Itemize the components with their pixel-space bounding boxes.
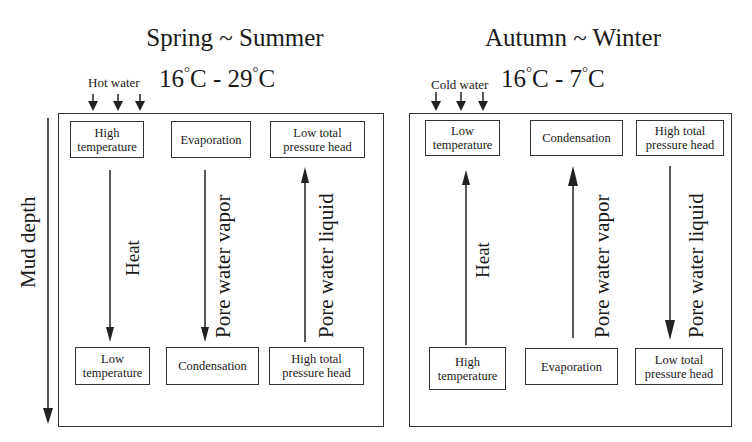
box-low-pressure-head-top: Low totalpressure head	[270, 121, 365, 158]
hot-water-label: Hot water	[88, 76, 140, 90]
box-evaporation-bottom: Evaporation	[525, 348, 618, 385]
temp-range-autumn-winter: 16°C - 7°C	[501, 58, 605, 93]
flow-label-heat: Heat	[472, 242, 494, 278]
box-line: temperature	[433, 138, 493, 152]
box-line: High total	[646, 124, 714, 138]
box-line: High	[438, 355, 498, 369]
cold-water-arrows-icon	[431, 92, 488, 111]
temp-to: 29	[228, 65, 253, 92]
box-line: temperature	[83, 366, 143, 380]
temp-unit: C	[259, 65, 276, 92]
box-low-pressure-head-bottom: Low totalpressure head	[635, 348, 723, 385]
box-low-temperature-top: Lowtemperature	[425, 120, 500, 156]
box-line: Condensation	[542, 131, 611, 145]
box-line: Evaporation	[541, 360, 602, 374]
mud-depth-arrow-icon	[43, 118, 53, 424]
box-line: Evaporation	[180, 133, 241, 147]
temp-from: 16	[159, 65, 184, 92]
box-line: Low total	[645, 353, 713, 367]
box-line: Low total	[283, 126, 351, 140]
temp-separator: -	[549, 65, 570, 92]
panel-title-spring-summer: Spring ~ Summer	[120, 24, 350, 52]
temp-unit: C	[532, 65, 549, 92]
box-condensation-top: Condensation	[530, 120, 623, 156]
mud-depth-label: Mud depth	[16, 196, 41, 288]
flow-label-heat: Heat	[122, 240, 144, 276]
box-high-temperature-bottom: Hightemperature	[429, 347, 506, 390]
panel-title-autumn-winter: Autumn ~ Winter	[458, 24, 688, 52]
box-line: Low	[83, 352, 143, 366]
box-line: High total	[282, 352, 350, 366]
flow-label-pore-water-vapor: Pore water vapor	[590, 195, 615, 338]
box-condensation-bottom: Condensation	[166, 347, 259, 385]
temp-range-spring-summer: 16°C - 29°C	[159, 58, 275, 93]
hot-water-arrows-icon	[88, 94, 145, 111]
temp-unit: C	[588, 65, 605, 92]
box-evaporation-top: Evaporation	[171, 121, 251, 158]
box-line: Low	[433, 124, 493, 138]
cold-water-label: Cold water	[431, 78, 488, 92]
box-line: pressure head	[646, 138, 714, 152]
temp-separator: -	[207, 65, 228, 92]
box-line: temperature	[438, 369, 498, 383]
flow-label-pore-water-vapor: Pore water vapor	[211, 195, 236, 338]
box-line: temperature	[77, 140, 137, 154]
temp-to: 7	[570, 65, 583, 92]
box-high-temperature-top: Hightemperature	[70, 121, 144, 158]
box-line: pressure head	[645, 367, 713, 381]
box-line: pressure head	[282, 366, 350, 380]
temp-from: 16	[501, 65, 526, 92]
box-line: Condensation	[178, 359, 247, 373]
box-line: High	[77, 126, 137, 140]
box-high-pressure-head-bottom: High totalpressure head	[269, 347, 364, 385]
box-high-pressure-head-top: High totalpressure head	[636, 120, 724, 156]
flow-label-pore-water-liquid: Pore water liquid	[684, 193, 709, 338]
box-line: pressure head	[283, 140, 351, 154]
flow-label-pore-water-liquid: Pore water liquid	[314, 193, 339, 338]
temp-unit: C	[190, 65, 207, 92]
box-low-temperature-bottom: Lowtemperature	[75, 347, 150, 385]
